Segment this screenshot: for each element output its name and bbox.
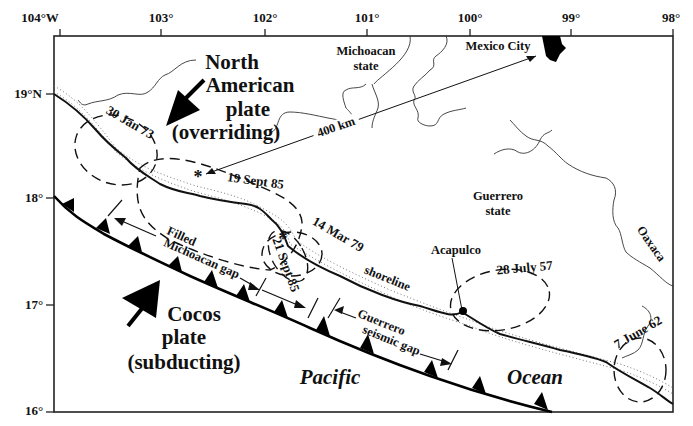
michoacan-state-label: Michoacan — [336, 44, 395, 58]
tick-18: 18° — [25, 190, 43, 205]
acapulco-marker-icon — [459, 307, 467, 315]
longitude-axis: 104°W 103° 102° 101° 100° 99° 98° — [21, 10, 680, 36]
oaxaca-label: Oaxaca — [634, 223, 669, 265]
guerrero-state-label: Guerrero — [473, 189, 523, 203]
tick-16: 16° — [25, 403, 43, 418]
plate-label-line: (subducting) — [127, 350, 240, 374]
tick-17: 17° — [25, 297, 43, 312]
cocos-plate: Cocos plate (subducting) — [122, 280, 241, 374]
michoacan-state-label: state — [354, 59, 379, 73]
tick-103: 103° — [149, 10, 174, 25]
plate-label-line: (overriding) — [172, 120, 280, 144]
filled-gap-label: Michoacan gap — [162, 235, 242, 281]
eq-label-14-mar-79: 14 Mar 79 — [310, 213, 367, 255]
plate-label-line: American — [206, 73, 295, 97]
acapulco-leader — [452, 258, 462, 310]
tick-100: 100° — [458, 10, 483, 25]
plate-label-line: plate — [226, 97, 270, 121]
tick-101: 101° — [355, 10, 380, 25]
mexico-city-area — [542, 36, 566, 62]
plate-label-line: North — [205, 50, 259, 74]
tick-98: 98° — [662, 10, 680, 25]
distance-label: 400 km — [315, 114, 357, 140]
north-american-plate: North American plate (overriding) — [166, 50, 295, 144]
plate-motion-arrow-icon — [122, 280, 160, 326]
plate-label-line: plate — [162, 325, 206, 349]
eq-label-30-jan-73: 30 Jan 73 — [104, 102, 158, 142]
latitude-axis: 19°N 18° 17° 16° — [14, 86, 54, 418]
epicenter-19-sept-85-icon: * — [194, 167, 203, 187]
guerrero-seismic-gap: Guerrero seismic gap — [328, 298, 458, 370]
mexico-city-label: Mexico City — [466, 39, 532, 53]
eq-label-7-june-62: 7 June 62 — [611, 312, 664, 351]
tick-102: 102° — [253, 10, 278, 25]
tick-104w: 104°W — [21, 10, 59, 25]
eq-label-19-sept-85: 19 Sept 85 — [226, 169, 285, 192]
ocean-label: Ocean — [507, 365, 563, 389]
tick-99: 99° — [562, 10, 580, 25]
tectonic-map: 104°W 103° 102° 101° 100° 99° 98° 19°N 1… — [0, 0, 693, 426]
acapulco-label: Acapulco — [431, 243, 481, 257]
eq-label-28-july-57: 28 July 57 — [496, 258, 554, 278]
tick-19n: 19°N — [14, 86, 42, 101]
plate-label-line: Cocos — [167, 302, 221, 326]
pacific-label: Pacific — [299, 365, 361, 389]
guerrero-state-label: state — [486, 204, 511, 218]
